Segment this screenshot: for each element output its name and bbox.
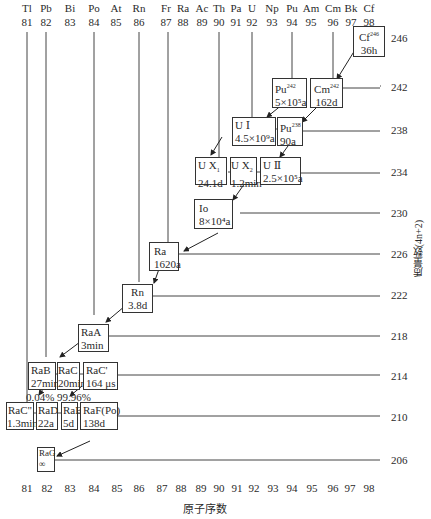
nuclide-box-rag: RaG ∞ [37, 447, 55, 472]
mass-number-label: 242 [391, 81, 408, 93]
element-z: 84 [84, 16, 104, 28]
element-symbol: U [242, 2, 262, 14]
element-z: 96 [323, 16, 343, 28]
nuclide-box-raf: RaF(Po) 138d [80, 402, 118, 430]
x-tick: 94 [282, 482, 302, 494]
element-z: 88 [173, 16, 193, 28]
y-axis-title: 质量数(4n+2) [411, 220, 426, 277]
x-axis-title: 原子序数 [183, 500, 227, 516]
mass-number-label: 246 [391, 32, 408, 44]
nuclide-box-rac-double-prime: RaC" 1.3min [6, 402, 34, 430]
mass-number-label: 234 [391, 166, 408, 178]
element-z: 86 [129, 16, 149, 28]
nuclide-box-pu242: Pu242 5×10⁵a [272, 78, 307, 108]
nuclide-box-cf246: Cf246 36h [353, 26, 385, 57]
element-symbol: Pu [282, 2, 302, 14]
x-tick: 86 [129, 482, 149, 494]
element-symbol: Ra [173, 2, 193, 14]
element-z: 92 [242, 16, 262, 28]
element-z: 83 [60, 16, 80, 28]
nuclide-box-rae: RaE 5d [61, 402, 78, 430]
x-tick: 82 [37, 482, 57, 494]
x-tick: 83 [60, 482, 80, 494]
nuclide-box-pu238: Pu238 90a [277, 117, 303, 146]
nuclide-box-u2: U Ⅱ 2.5×10⁵a [260, 157, 301, 185]
element-symbol: Bk [341, 2, 361, 14]
nuclide-box-ux1: U X1 24.1d [195, 157, 227, 185]
element-symbol: At [106, 2, 126, 14]
nuclide-box-rac-prime: RaC' 164 μs [83, 362, 118, 390]
element-symbol: Np [262, 2, 282, 14]
nuclide-box-ra: Ra 1620a [149, 242, 179, 271]
x-tick: 89 [191, 482, 211, 494]
mass-number-label: 210 [391, 411, 408, 423]
x-tick: 93 [263, 482, 283, 494]
nuclide-box-io: Io 8×10⁴a [194, 199, 233, 229]
element-symbol: Cm [323, 2, 343, 14]
x-tick: 92 [244, 482, 264, 494]
nuclide-box-rn: Rn 3.8d [122, 284, 153, 313]
nuclide-box-rab: RaB 27min [28, 362, 56, 390]
nuclide-box-cm242: Cm242 162d [310, 78, 343, 108]
element-symbol: Rn [129, 2, 149, 14]
element-z: 93 [262, 16, 282, 28]
x-tick: 88 [171, 482, 191, 494]
element-symbol: Cf [359, 2, 379, 14]
x-tick: 97 [340, 482, 360, 494]
connector-lines [0, 0, 431, 519]
decay-series-diagram: Tl 81 Pb 82 Bi 83 Po 84 At 85 Rn 86 Fr 8… [0, 0, 431, 519]
x-tick: 84 [84, 482, 104, 494]
element-symbol: Tl [17, 2, 37, 14]
element-z: 81 [17, 16, 37, 28]
x-tick: 98 [359, 482, 379, 494]
element-symbol: Po [84, 2, 104, 14]
x-tick: 87 [152, 482, 172, 494]
nuclide-box-u1: U Ⅰ 4.5×10⁹a [232, 117, 276, 146]
mass-number-label: 238 [391, 124, 408, 136]
x-tick: 85 [107, 482, 127, 494]
x-tick: 90 [209, 482, 229, 494]
nuclide-box-ux2: U X2 1.2min [230, 157, 257, 185]
nuclide-box-rac: RaC 20min [57, 362, 80, 390]
mass-number-label: 230 [391, 207, 408, 219]
element-symbol: Am [301, 2, 321, 14]
element-z: 85 [106, 16, 126, 28]
mass-number-label: 222 [391, 289, 408, 301]
mass-number-label: 218 [391, 330, 408, 342]
x-tick: 81 [17, 482, 37, 494]
element-symbol: Pb [36, 2, 56, 14]
element-z: 95 [301, 16, 321, 28]
mass-number-label: 214 [391, 370, 408, 382]
nuclide-box-raa: RaA 3min [78, 324, 109, 352]
nuclide-box-rad: RaD 22a [36, 402, 58, 430]
mass-number-label: 206 [391, 454, 408, 466]
element-symbol: Bi [60, 2, 80, 14]
x-tick: 95 [302, 482, 322, 494]
element-z: 94 [282, 16, 302, 28]
element-z: 82 [36, 16, 56, 28]
mass-number-label: 226 [391, 248, 408, 260]
